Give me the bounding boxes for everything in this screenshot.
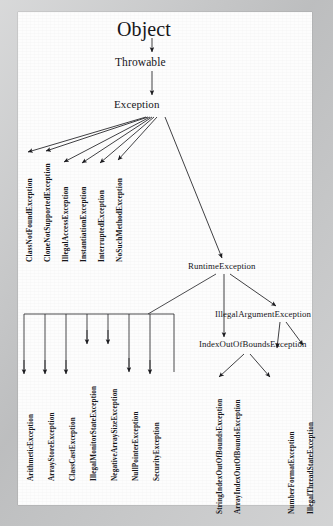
node-illegal-access-exception: IllegalAccessException: [61, 186, 70, 262]
node-illegal-thread-state-exception: IllegalThreadStateException: [307, 422, 315, 514]
node-null-pointer-exception: NullPointerException: [132, 411, 140, 481]
edge-exception-clonenotsupported: [46, 117, 148, 151]
edge-runtime-illegalargument: [230, 274, 276, 306]
node-number-format-exception: NumberFormatException: [288, 431, 296, 514]
edge-exception-runtime: [165, 117, 222, 258]
node-clone-not-supported-exception: CloneNotSupportedException: [43, 163, 52, 262]
node-illegal-monitor-state-exception: IllegalMonitorStateException: [90, 386, 98, 481]
node-illegal-argument-exception: IllegalArgumentException: [215, 309, 311, 319]
node-class-not-found-exception: ClassNotFoundException: [25, 178, 34, 262]
node-interrupted-exception: InterruptedException: [97, 190, 106, 262]
node-no-such-method-exception: NoSuchMethodException: [115, 178, 124, 262]
node-class-cast-exception: ClassCastException: [69, 417, 77, 481]
node-array-store-exception: ArrayStoreException: [48, 412, 56, 481]
node-object: Object: [117, 18, 171, 41]
edge-ioobe-stringindex: [219, 354, 244, 377]
node-index-out-of-bounds-exception: IndexOutOfBoundsException: [199, 339, 307, 349]
node-arithmetic-exception: ArithmeticException: [27, 414, 35, 481]
node-security-exception: SecurityException: [153, 422, 161, 481]
edge-exception-instantiation: [82, 117, 152, 163]
node-array-index-out-of-bounds-exception: ArrayIndexOutOfBoundsException: [234, 399, 242, 514]
node-string-index-out-of-bounds-exception: StringIndexOutOfBoundsException: [216, 399, 224, 514]
node-negative-array-size-exception: NegativeArraySizeException: [111, 388, 119, 481]
node-throwable: Throwable: [115, 56, 166, 68]
node-runtime-exception: RuntimeException: [188, 261, 256, 271]
node-instantiation-exception: InstantiationException: [79, 186, 88, 262]
node-exception: Exception: [114, 98, 160, 110]
edge-ioobe-arrayindex: [250, 354, 270, 377]
edge-runtime-bus-diagonal: [148, 274, 216, 314]
edge-exception-classnotfound: [28, 117, 146, 152]
